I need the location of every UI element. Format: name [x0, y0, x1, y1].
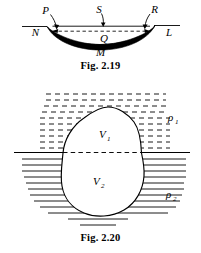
bottom-hatching: [68, 219, 128, 225]
blob-outline: [61, 107, 144, 216]
label-M: M: [95, 46, 106, 58]
figure-2-19: P S R N Q L M Fig. 2.19: [0, 0, 201, 80]
label-V1-subscript: 1: [107, 135, 111, 143]
figure-2-20-drawing: V 1 V 2 ρ 1 ρ 2: [0, 80, 201, 232]
label-Q: Q: [100, 32, 108, 44]
label-rho2-subscript: 2: [173, 195, 177, 203]
label-P: P: [41, 4, 49, 16]
label-R: R: [150, 3, 158, 15]
figure-2-19-drawing: P S R N Q L M: [0, 0, 201, 58]
leader-arrowhead-R: [143, 24, 148, 29]
label-rho1: ρ: [167, 111, 173, 123]
figure-2-20: V 1 V 2 ρ 1 ρ 2 Fig. 2.20: [0, 80, 201, 253]
label-rho2: ρ: [165, 188, 171, 200]
leader-arrowhead-P: [54, 24, 59, 29]
label-rho1-subscript: 1: [175, 118, 179, 126]
label-V2-subscript: 2: [101, 182, 105, 190]
label-L: L: [165, 26, 172, 38]
figure-2-20-caption: Fig. 2.20: [0, 232, 201, 243]
label-S: S: [96, 3, 102, 15]
figure-2-19-caption: Fig. 2.19: [0, 60, 201, 71]
figures-page: P S R N Q L M Fig. 2.19: [0, 0, 201, 253]
label-N: N: [31, 26, 40, 38]
